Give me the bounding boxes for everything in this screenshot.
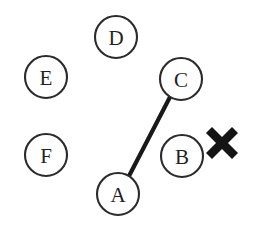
node-a[interactable]: A — [97, 173, 139, 215]
node-f-label: F — [40, 144, 52, 168]
node-d-label: D — [108, 26, 123, 50]
diagram-canvas: A B C D E F — [0, 0, 259, 234]
node-e[interactable]: E — [25, 56, 67, 98]
node-c[interactable]: C — [160, 58, 202, 100]
node-e-label: E — [40, 66, 53, 90]
node-b-label: B — [175, 145, 189, 169]
node-d[interactable]: D — [95, 16, 137, 58]
node-c-label: C — [174, 68, 188, 92]
node-graph-figure: A B C D E F — [0, 0, 259, 234]
node-f[interactable]: F — [25, 134, 67, 176]
node-a-label: A — [110, 183, 126, 207]
node-b[interactable]: B — [161, 135, 203, 177]
x-mark-icon — [209, 130, 235, 156]
